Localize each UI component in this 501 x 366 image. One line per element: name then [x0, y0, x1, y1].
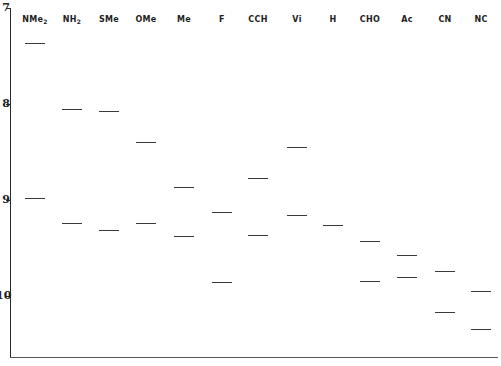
category-label-me: Me [177, 15, 191, 25]
energy-level-nc-1 [471, 291, 491, 292]
energy-level-cch-2 [248, 235, 268, 236]
energy-level-h-1 [323, 225, 343, 226]
category-label-subscript: 2 [77, 18, 81, 25]
category-label-text: F [219, 15, 225, 24]
energy-level-nme2-2 [25, 198, 45, 199]
energy-level-sme-1 [99, 111, 119, 112]
category-label-cho: CHO [360, 15, 380, 25]
x-axis [10, 357, 498, 358]
category-label-cch: CCH [248, 15, 267, 25]
energy-level-sme-2 [99, 230, 119, 231]
energy-level-f-2 [212, 282, 232, 283]
energy-level-ac-2 [397, 277, 417, 278]
y-tick-label-9: 9 [0, 194, 10, 205]
energy-level-vi-2 [287, 215, 307, 216]
energy-level-nh2-2 [62, 223, 82, 224]
y-tick-label-8: 8 [0, 98, 10, 109]
category-label-cn: CN [438, 15, 451, 25]
energy-level-nh2-1 [62, 109, 82, 110]
category-label-text: Ac [401, 15, 413, 24]
category-label-text: CN [438, 15, 451, 24]
category-label-nme2: NMe2 [22, 15, 47, 27]
y-axis [10, 8, 11, 358]
category-label-text: Vi [292, 15, 301, 24]
energy-level-nc-2 [471, 329, 491, 330]
energy-level-cn-2 [435, 312, 455, 313]
category-label-text: NH [63, 15, 77, 24]
category-label-text: CCH [248, 15, 267, 24]
energy-level-ome-1 [136, 142, 156, 143]
category-label-vi: Vi [292, 15, 301, 25]
category-label-nh2: NH2 [63, 15, 81, 27]
category-label-text: CHO [360, 15, 380, 24]
category-label-text: NMe [22, 15, 43, 24]
energy-level-me-2 [174, 236, 194, 237]
energy-level-cn-1 [435, 271, 455, 272]
category-label-text: H [330, 15, 337, 24]
category-label-ac: Ac [401, 15, 413, 25]
energy-level-vi-1 [287, 147, 307, 148]
category-label-sme: SMe [99, 15, 119, 25]
category-label-text: NC [474, 15, 487, 24]
category-label-text: SMe [99, 15, 119, 24]
energy-level-cho-2 [360, 281, 380, 282]
category-label-f: F [219, 15, 225, 25]
energy-level-ome-2 [136, 223, 156, 224]
y-tick-label-7: 7 [0, 2, 10, 13]
energy-level-cho-1 [360, 241, 380, 242]
category-label-subscript: 2 [43, 18, 47, 25]
y-tick-label-10: 10 [0, 290, 8, 301]
energy-level-f-1 [212, 212, 232, 213]
energy-level-ac-1 [397, 255, 417, 256]
energy-level-nme2-1 [25, 43, 45, 44]
category-label-nc: NC [474, 15, 487, 25]
category-label-text: Me [177, 15, 191, 24]
category-label-ome: OMe [135, 15, 156, 25]
energy-level-chart: 7 8 9 10 NMe2NH2SMeOMeMeFCCHViHCHOAcCNNC [0, 0, 501, 366]
energy-level-me-1 [174, 187, 194, 188]
category-label-h: H [330, 15, 337, 25]
category-label-text: OMe [135, 15, 156, 24]
energy-level-cch-1 [248, 178, 268, 179]
